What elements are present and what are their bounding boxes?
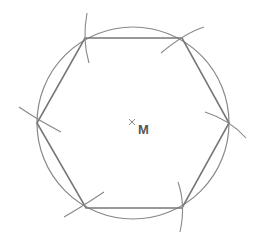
center-label: M xyxy=(138,122,149,137)
hexagon-construction xyxy=(0,0,261,248)
center-marker xyxy=(129,119,135,125)
